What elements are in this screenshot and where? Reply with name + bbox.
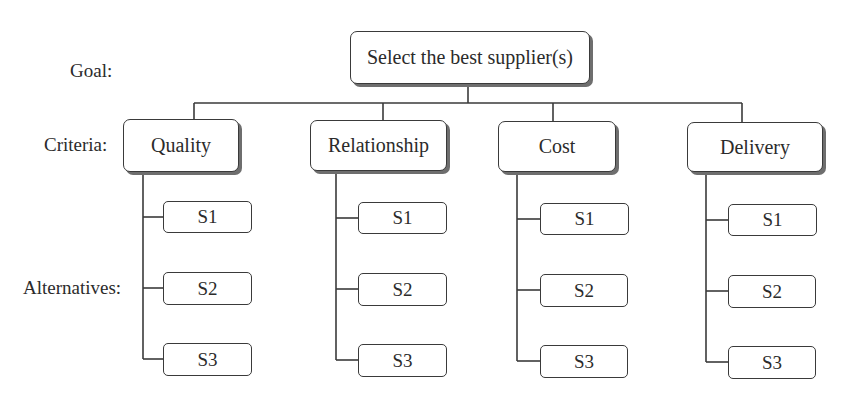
alternative-label: S3 <box>762 352 782 374</box>
alternative-node-delivery-s2: S2 <box>728 275 816 308</box>
goal-node: Select the best supplier(s) <box>350 31 590 84</box>
alternative-node-cost-s2: S2 <box>540 274 628 307</box>
criterion-label: Quality <box>151 134 211 157</box>
alternative-node-cost-s1: S1 <box>540 203 629 235</box>
criterion-label: Relationship <box>328 134 429 157</box>
alternative-label: S2 <box>197 278 217 300</box>
alternative-node-cost-s3: S3 <box>540 345 628 378</box>
goal-node-label: Select the best supplier(s) <box>367 46 573 69</box>
criterion-label: Delivery <box>720 136 790 159</box>
alternative-label: S2 <box>392 279 412 301</box>
alternative-label: S3 <box>392 350 412 372</box>
criterion-node-quality: Quality <box>123 119 239 172</box>
goal-level-label: Goal: <box>70 60 112 82</box>
alternative-label: S1 <box>574 208 594 230</box>
alternative-node-quality-s2: S2 <box>163 272 252 305</box>
criteria-level-label: Criteria: <box>44 134 107 156</box>
alternative-label: S1 <box>762 209 782 231</box>
alternative-label: S3 <box>574 351 594 373</box>
alternative-node-delivery-s1: S1 <box>728 204 817 236</box>
alternative-label: S1 <box>197 206 217 228</box>
alternative-label: S2 <box>574 280 594 302</box>
alternatives-level-label: Alternatives: <box>23 277 121 299</box>
alternative-label: S2 <box>762 281 782 303</box>
alternative-node-relationship-s2: S2 <box>358 273 447 306</box>
alternative-label: S3 <box>197 349 217 371</box>
alternative-node-quality-s1: S1 <box>163 201 252 233</box>
criterion-node-delivery: Delivery <box>687 122 823 172</box>
alternative-node-relationship-s1: S1 <box>358 202 447 234</box>
alternative-node-relationship-s3: S3 <box>358 344 447 377</box>
criterion-node-cost: Cost <box>498 121 616 172</box>
criterion-label: Cost <box>539 135 576 158</box>
alternative-node-delivery-s3: S3 <box>728 346 816 379</box>
alternative-label: S1 <box>392 207 412 229</box>
alternative-node-quality-s3: S3 <box>163 343 252 376</box>
criterion-node-relationship: Relationship <box>310 120 447 171</box>
